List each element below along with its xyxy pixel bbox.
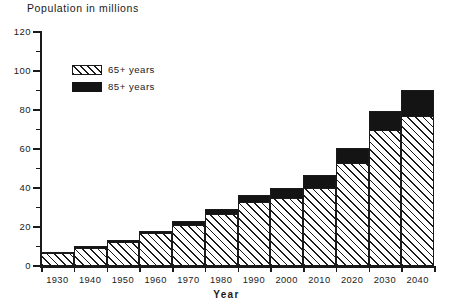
bar-segment-85-1950: [107, 240, 140, 243]
x-axis-tick: [434, 266, 436, 272]
y-axis-tick: [33, 187, 41, 189]
x-axis-tick: [270, 266, 272, 272]
legend-label-85: 85+ years: [108, 81, 155, 92]
bar-segment-65-1930: [41, 253, 74, 266]
bar-segment-65-2010: [303, 188, 336, 266]
x-axis-tick: [303, 266, 305, 272]
y-axis-label: 120: [3, 26, 31, 37]
bar-segment-65-2040: [401, 116, 434, 266]
bar-2020: [336, 32, 369, 266]
chart-title: Population in millions: [27, 2, 139, 14]
x-axis-tick: [107, 266, 109, 272]
x-axis-tick: [369, 266, 371, 272]
legend-label-65: 65+ years: [108, 64, 155, 75]
hatch-swatch-icon: [72, 65, 102, 75]
bar-segment-85-2040: [401, 90, 434, 118]
bar-1990: [238, 32, 271, 266]
y-axis-tick: [33, 265, 41, 267]
bar-1930: [41, 32, 74, 266]
y-axis-label: 100: [3, 65, 31, 76]
bar-segment-65-1960: [139, 232, 172, 266]
bar-segment-65-1990: [238, 202, 271, 266]
y-axis-tick: [33, 148, 41, 150]
bar-segment-65-2030: [369, 129, 402, 266]
bar-1970: [172, 32, 205, 266]
bar-1980: [205, 32, 238, 266]
bar-segment-85-1980: [205, 209, 238, 215]
x-axis-tick: [401, 266, 403, 272]
x-axis-title: Year: [0, 289, 453, 300]
bar-segment-65-1970: [172, 224, 205, 266]
bar-segment-65-1980: [205, 214, 238, 266]
y-axis-tick-group: 020406080100120: [0, 0, 31, 304]
x-axis-tick: [74, 266, 76, 272]
y-axis-label: 40: [3, 182, 31, 193]
bar-segment-85-1960: [139, 231, 172, 234]
bar-segment-65-1940: [74, 247, 107, 266]
y-axis-tick: [33, 31, 41, 33]
x-axis-tick: [172, 266, 174, 272]
x-axis-tick: [336, 266, 338, 272]
bar-2010: [303, 32, 336, 266]
bar-segment-65-1950: [107, 241, 140, 266]
bar-2000: [270, 32, 303, 266]
bar-segment-85-1940: [74, 246, 107, 248]
bar-segment-85-2020: [336, 148, 369, 164]
bar-segment-65-2000: [270, 197, 303, 266]
y-axis-tick: [33, 70, 41, 72]
x-axis-tick: [238, 266, 240, 272]
y-axis-label: 60: [3, 143, 31, 154]
bar-2030: [369, 32, 402, 266]
bar-segment-65-2020: [336, 162, 369, 266]
y-axis-label: 20: [3, 221, 31, 232]
y-axis-label: 0: [3, 260, 31, 271]
population-bar-chart: Population in millions 020406080100120 1…: [0, 0, 453, 304]
x-axis-tick: [139, 266, 141, 272]
y-axis-label: 80: [3, 104, 31, 115]
x-axis-tick: [41, 266, 43, 272]
bar-segment-85-1990: [238, 195, 271, 203]
y-axis-tick: [33, 109, 41, 111]
bar-segment-85-1970: [172, 221, 205, 225]
bar-segment-85-2000: [270, 188, 303, 199]
y-axis-tick: [33, 226, 41, 228]
x-axis-tick: [205, 266, 207, 272]
solid-swatch-icon: [72, 82, 102, 92]
bar-segment-85-2010: [303, 175, 336, 189]
x-axis-label-2040: 2040: [396, 275, 440, 285]
bar-2040: [401, 32, 434, 266]
bar-segment-85-1930: [41, 252, 74, 254]
bar-segment-85-2030: [369, 111, 402, 130]
